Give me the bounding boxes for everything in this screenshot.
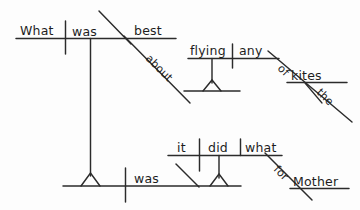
word-was-upper: was <box>72 24 97 39</box>
word-any: any <box>239 43 263 58</box>
word-kites: kites <box>291 68 322 83</box>
word-of: of <box>275 62 293 80</box>
word-was-main: was <box>134 171 159 186</box>
of-preposition-diagonal <box>268 51 352 122</box>
main-predicate-nominative-slant <box>176 164 199 187</box>
of-prepositional-phrase-group <box>268 51 352 122</box>
diagram-canvas: What was best about flying any of kites … <box>0 0 360 210</box>
word-what-upper: What <box>20 23 54 38</box>
word-best: best <box>134 23 162 38</box>
word-about: about <box>143 52 176 85</box>
word-mother: Mother <box>293 174 339 189</box>
word-for: for <box>271 163 292 184</box>
word-flying: flying <box>190 43 226 58</box>
word-what-lower: what <box>245 140 277 155</box>
sentence-diagram-page: What was best about flying any of kites … <box>0 0 360 210</box>
word-did: did <box>208 140 228 155</box>
word-it: it <box>177 140 186 155</box>
